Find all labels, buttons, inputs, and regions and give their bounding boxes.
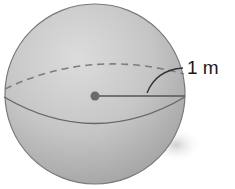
center-point	[91, 92, 100, 101]
sphere-figure: 1 m	[0, 0, 235, 189]
sphere-diagram	[0, 0, 235, 189]
radius-label: 1 m	[187, 58, 219, 77]
